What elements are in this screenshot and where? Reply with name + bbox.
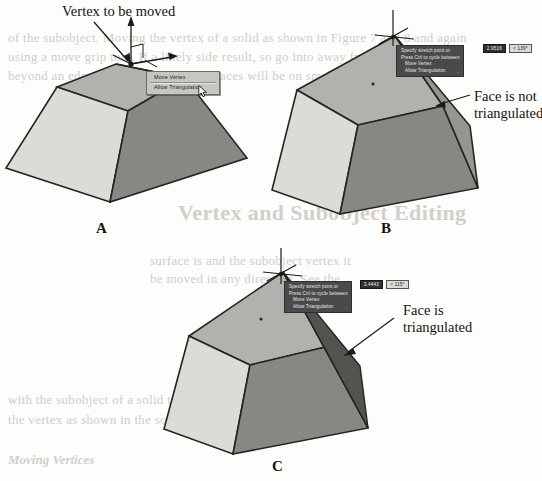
dyn-tip-c-ellipsis: ·· [345,306,348,311]
gizmo-xz-plane-handle [131,44,143,58]
gizmo-xy-plane-handle [131,61,157,67]
callout-face-is-not-triangulated: Face is not triangulated [474,88,542,122]
panel-letter-a: A [96,220,107,237]
dynamic-input-angle-field-c[interactable]: < 115° [386,280,409,289]
leader-c [343,318,394,356]
figure-page: of the subobject. Moving the vertex of a… [0,0,542,481]
dynamic-input-distance-field-c[interactable]: 3.4443 [360,280,383,289]
arrow-pointer-icon [198,85,209,98]
vertex-grip-c [279,272,283,276]
leader-a [94,22,131,65]
dynamic-input-angle-field-b[interactable]: < 139° [509,44,532,53]
context-menu-item-move-vertex[interactable]: Move Vertex [148,73,218,82]
panel-letter-b: B [381,220,391,237]
vertex-grip-b [391,35,395,39]
dynamic-input-distance-field-b[interactable]: 2.9516 [483,44,506,53]
dyn-tip-b-line-4: Allow Triangulation [401,68,460,75]
callout-vertex-to-be-moved: Vertex to be moved [62,3,175,20]
move-gizmo-a [113,16,178,67]
solid-c-face-marker [259,317,262,320]
dyn-tip-b-ellipsis: ·· [457,70,460,75]
solid-b-face-marker [371,82,374,85]
gizmo-x-arrowhead [168,53,178,61]
solid-a-left-face [6,87,128,202]
panel-letter-c: C [272,458,283,475]
dynamic-input-tooltip-c: Specify stretch point or Press Ctrl to c… [284,281,352,313]
callout-face-is-triangulated: Face is triangulated [403,302,472,336]
dynamic-input-tooltip-b: Specify stretch point or Press Ctrl to c… [396,45,464,77]
dyn-tip-c-line-4: Allow Triangulation [289,304,348,311]
